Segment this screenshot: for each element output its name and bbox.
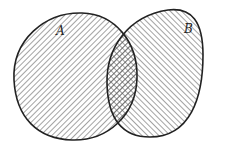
set-b-label: B xyxy=(184,23,193,35)
set-a-label: A xyxy=(56,25,65,37)
venn-svg xyxy=(0,0,228,149)
venn-diagram: A B xyxy=(0,0,228,149)
